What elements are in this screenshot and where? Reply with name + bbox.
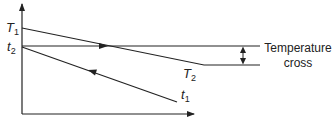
double-arrow-up-icon bbox=[240, 47, 246, 54]
double-arrow-down-icon bbox=[240, 58, 246, 65]
annotation-line-1: Temperature bbox=[262, 41, 334, 56]
flow-arrow-right-icon bbox=[99, 43, 108, 49]
annotation-line-2: cross bbox=[262, 56, 334, 71]
temperature-cross-annotation: Temperature cross bbox=[262, 41, 334, 71]
label-t1: t1 bbox=[181, 88, 190, 106]
label-T2: T2 bbox=[183, 67, 196, 85]
label-t2: t2 bbox=[7, 40, 16, 58]
label-T1: T1 bbox=[6, 21, 19, 39]
flow-arrow-left-icon bbox=[88, 70, 97, 76]
